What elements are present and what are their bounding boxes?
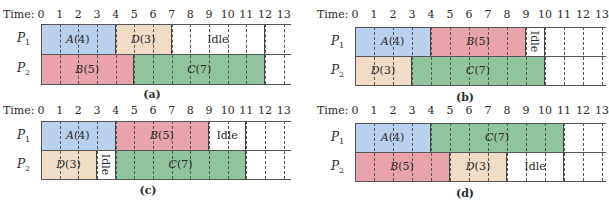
- panel-caption: (c): [139, 184, 156, 197]
- job-label: C(7): [485, 131, 509, 144]
- idle-block: Idle: [507, 152, 564, 181]
- job-block-d: D(3): [116, 24, 172, 54]
- job-label: B(5): [466, 35, 490, 48]
- job-block-d: D(3): [41, 150, 97, 179]
- job-label: C(7): [466, 64, 490, 77]
- time-tick-label: 9: [523, 105, 530, 117]
- job-block-b: B(5): [116, 121, 209, 150]
- processor-label: P1: [17, 31, 30, 50]
- time-tick-label: 12: [258, 9, 272, 21]
- time-tick-label: 11: [557, 105, 571, 117]
- panel-caption: (b): [456, 91, 474, 104]
- idle-block: Idle: [97, 150, 116, 179]
- time-tick-label: 1: [56, 105, 63, 117]
- time-tick-label: 5: [447, 105, 454, 117]
- job-label: C(7): [187, 63, 211, 76]
- row-divider: [355, 181, 606, 182]
- time-axis-label: Time:: [317, 105, 349, 117]
- job-label: D(3): [131, 33, 155, 46]
- time-tick-label: 2: [75, 105, 82, 117]
- job-label: B(5): [150, 129, 174, 142]
- time-tick-label: 11: [557, 9, 571, 21]
- time-tick-label: 10: [538, 105, 552, 117]
- time-tick-label: 3: [409, 9, 416, 21]
- job-label: B(5): [390, 160, 414, 173]
- time-tick-label: 9: [206, 9, 213, 21]
- time-tick-label: 5: [131, 105, 138, 117]
- time-tick-label: 13: [595, 9, 609, 21]
- job-block-d: D(3): [355, 56, 412, 85]
- job-block-d: D(3): [450, 152, 507, 181]
- job-label: B(5): [75, 63, 99, 76]
- time-axis-label: Time:: [3, 105, 35, 117]
- time-tick-label: 0: [38, 9, 45, 21]
- time-tick-label: 2: [75, 9, 82, 21]
- time-tick-label: 8: [504, 9, 511, 21]
- row-divider: [355, 152, 606, 153]
- processor-label: P1: [331, 34, 344, 53]
- job-label: D(3): [56, 158, 80, 171]
- time-tick-label: 6: [466, 105, 473, 117]
- time-tick-label: 10: [221, 105, 235, 117]
- job-label: A(4): [381, 35, 405, 48]
- row-divider: [355, 56, 606, 57]
- job-label: A(4): [381, 131, 405, 144]
- time-tick-label: 2: [390, 9, 397, 21]
- time-tick-label: 6: [150, 9, 157, 21]
- job-label: A(4): [66, 33, 90, 46]
- time-tick-label: 6: [150, 105, 157, 117]
- time-tick-label: 4: [428, 105, 435, 117]
- time-tick-label: 12: [576, 9, 590, 21]
- idle-block: Idle: [172, 24, 265, 54]
- time-tick-label: 13: [595, 105, 609, 117]
- job-label: Idle: [207, 33, 228, 46]
- time-tick-label: 1: [371, 105, 378, 117]
- row-divider: [355, 27, 606, 28]
- time-tick-label: 7: [168, 9, 175, 21]
- job-label: Idle: [99, 154, 112, 175]
- time-tick-label: 12: [258, 105, 272, 117]
- time-tick-label: 7: [485, 105, 492, 117]
- time-tick-label: 4: [112, 105, 119, 117]
- idle-block: Idle: [526, 27, 545, 56]
- row-divider: [355, 123, 606, 124]
- job-label: C(7): [169, 158, 193, 171]
- processor-label: P1: [17, 128, 30, 147]
- time-axis-label: Time:: [3, 9, 35, 21]
- time-tick-label: 13: [277, 9, 291, 21]
- job-label: Idle: [216, 129, 237, 142]
- row-divider: [41, 54, 291, 55]
- time-axis-label: Time:: [317, 9, 349, 21]
- processor-label: P2: [331, 63, 344, 82]
- row-divider: [41, 179, 291, 180]
- time-tick-label: 8: [187, 105, 194, 117]
- time-tick-label: 7: [485, 9, 492, 21]
- time-tick-label: 4: [112, 9, 119, 21]
- row-divider: [41, 24, 291, 25]
- job-label: Idle: [529, 31, 542, 52]
- time-tick-label: 0: [352, 9, 359, 21]
- time-tick-label: 11: [239, 105, 253, 117]
- time-tick-label: 12: [576, 105, 590, 117]
- time-tick-label: 3: [94, 9, 101, 21]
- time-tick-label: 10: [221, 9, 235, 21]
- job-label: D(3): [371, 64, 395, 77]
- row-divider: [355, 85, 606, 86]
- time-tick-label: 9: [523, 9, 530, 21]
- time-tick-label: 0: [352, 105, 359, 117]
- time-tick-label: 4: [428, 9, 435, 21]
- time-tick-label: 3: [409, 105, 416, 117]
- job-label: D(3): [466, 160, 490, 173]
- time-tick-label: 10: [538, 9, 552, 21]
- time-tick-label: 0: [38, 105, 45, 117]
- processor-label: P2: [17, 61, 30, 80]
- time-tick-label: 11: [239, 9, 253, 21]
- time-tick-label: 7: [168, 105, 175, 117]
- panel-caption: (d): [456, 187, 474, 200]
- job-block-b: B(5): [431, 27, 526, 56]
- panel-caption: (a): [143, 88, 161, 101]
- time-tick-label: 9: [206, 105, 213, 117]
- time-tick-label: 1: [371, 9, 378, 21]
- time-tick-label: 8: [504, 105, 511, 117]
- job-label: Idle: [524, 160, 545, 173]
